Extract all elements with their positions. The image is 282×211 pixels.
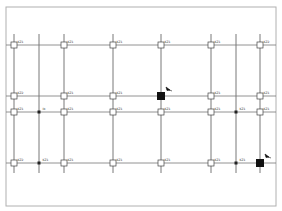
solid-column-icon (157, 92, 165, 100)
column-marker: KZ1 (208, 40, 221, 49)
column-label: KZ1 (215, 40, 221, 44)
hollow-column-icon (61, 160, 67, 166)
column-label: KZ1 (117, 158, 123, 162)
hollow-column-icon (11, 160, 17, 166)
column-label: KZ1 (264, 107, 270, 111)
column-marker: KZ1 (110, 40, 123, 49)
leader-arrow-icon (265, 154, 271, 158)
small-column-icon (38, 162, 41, 165)
hollow-column-icon (158, 160, 164, 166)
hollow-column-icon (208, 42, 214, 48)
hollow-column-icon (257, 93, 263, 99)
column-label: KZ1 (68, 40, 74, 44)
column-marker: KZ2 (11, 91, 24, 100)
hollow-column-icon (158, 42, 164, 48)
column-label: KZ1 (68, 91, 74, 95)
hollow-column-icon (158, 109, 164, 115)
column-marker: KZ1 (61, 40, 74, 49)
column-label: KZ1 (165, 40, 171, 44)
hollow-column-icon (208, 93, 214, 99)
hollow-column-icon (110, 109, 116, 115)
column-label: KZ2 (264, 40, 270, 44)
column-marker: KZ1 (257, 91, 270, 100)
drawing-frame (6, 7, 276, 206)
column-label: KZ2 (18, 91, 24, 95)
column-label: KZ1 (18, 40, 24, 44)
leader-arrow-icon (166, 87, 172, 91)
solid-column-icon (256, 159, 264, 167)
column-label: KZ1 (240, 158, 246, 162)
column-label: KZ2 (18, 158, 24, 162)
hollow-column-icon (208, 160, 214, 166)
hollow-column-icon (11, 42, 17, 48)
column-label: KZ1 (117, 91, 123, 95)
hollow-column-icon (110, 42, 116, 48)
column-markers: KZ1KZ1KZ1KZ1KZ1KZ2KZ2KZ1KZ1KZ1KZ1KZ1IbKZ… (11, 40, 271, 168)
column-label: KZ1 (117, 40, 123, 44)
hollow-column-icon (61, 42, 67, 48)
column-marker (157, 87, 172, 100)
column-label: KZ1 (165, 158, 171, 162)
column-label: KZ1 (68, 107, 74, 111)
hollow-column-icon (11, 93, 17, 99)
column-marker: KZ2 (257, 40, 270, 49)
column-label: KZ1 (215, 158, 221, 162)
hollow-column-icon (61, 109, 67, 115)
small-column-icon (235, 111, 238, 114)
column-marker: KZ1 (11, 40, 24, 49)
column-label: KZ1 (215, 107, 221, 111)
column-marker (256, 154, 271, 167)
column-label: KZ1 (117, 107, 123, 111)
column-marker: KZ1 (208, 107, 221, 116)
hollow-column-icon (110, 160, 116, 166)
column-marker: KZ1 (110, 158, 123, 167)
hollow-column-icon (61, 93, 67, 99)
hollow-column-icon (257, 109, 263, 115)
hollow-column-icon (257, 42, 263, 48)
column-label: KZ1 (240, 107, 246, 111)
column-marker: KZ1 (11, 107, 24, 116)
small-column-icon (235, 162, 238, 165)
column-marker: KZ1 (158, 40, 171, 49)
column-label: KZ1 (18, 107, 24, 111)
column-marker: KZ1 (257, 107, 270, 116)
hollow-column-icon (208, 109, 214, 115)
hollow-column-icon (110, 93, 116, 99)
grid-axes (6, 34, 276, 173)
column-label: KZ1 (264, 91, 270, 95)
column-label: KZ1 (165, 107, 171, 111)
column-label: Ib (43, 107, 46, 111)
column-marker: KZ1 (158, 107, 171, 116)
column-marker: KZ1 (61, 91, 74, 100)
column-marker: KZ2 (11, 158, 24, 167)
column-marker: KZ1 (208, 91, 221, 100)
structural-grid-plan: KZ1KZ1KZ1KZ1KZ1KZ2KZ2KZ1KZ1KZ1KZ1KZ1IbKZ… (0, 0, 282, 211)
column-label: KZ1 (43, 158, 49, 162)
hollow-column-icon (11, 109, 17, 115)
column-marker: KZ1 (110, 91, 123, 100)
column-label: KZ1 (215, 91, 221, 95)
column-marker: KZ1 (61, 158, 74, 167)
column-label: KZ1 (68, 158, 74, 162)
column-marker: KZ1 (110, 107, 123, 116)
column-marker: KZ1 (61, 107, 74, 116)
column-marker: KZ1 (208, 158, 221, 167)
small-column-icon (38, 111, 41, 114)
column-marker: KZ1 (158, 158, 171, 167)
